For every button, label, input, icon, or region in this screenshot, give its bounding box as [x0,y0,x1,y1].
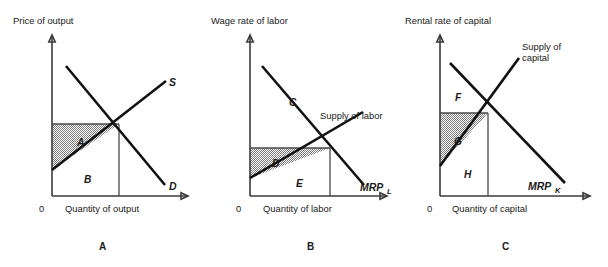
panel-b-region-label-e: E [296,178,304,189]
panel-c-x-axis-title: Quantity of capital [452,203,527,214]
panel-c-origin-label: 0 [427,203,432,214]
panel-a-caption: A [99,241,107,252]
panel-a-output-market: Price of output S D A B 0 Quantity of ou… [0,0,203,267]
panel-b-supply-label: Supply of labor [320,110,383,121]
economics-factor-market-figure: Price of output S D A B 0 Quantity of ou… [0,0,608,267]
panel-b-region-label-d: D [272,158,280,169]
panel-b-region-d-shading [250,148,330,178]
panel-c-region-label-g: G [454,136,462,147]
panel-b-labor-market: Wage rate of labor Supply of labor MRP L… [203,0,406,267]
panel-b-demand-label-group: MRP L [360,181,392,196]
panel-b-origin-label: 0 [236,203,241,214]
panel-b-region-label-c: C [289,97,297,108]
panel-b-demand-label-subscript: L [387,187,392,196]
panel-c-region-label-f: F [455,92,462,103]
panel-c-demand-label-subscript: K [555,186,561,195]
panel-c-caption: C [502,241,510,252]
panel-b-y-axis-title: Wage rate of labor [211,15,288,26]
panel-b-supply-curve [250,112,363,178]
panel-c-y-axis-title: Rental rate of capital [405,15,491,26]
panel-a-region-label-b: B [84,174,91,185]
panel-c-supply-curve [440,58,519,166]
panel-b-demand-label: MRP [360,181,384,193]
panel-b-x-axis-title: Quantity of labor [263,203,332,214]
panel-c-demand-label-group: MRP K [528,180,561,195]
panel-c-capital-market: Rental rate of capital Supply of capital… [400,0,608,267]
panel-c-demand-label: MRP [528,180,552,192]
panel-c-supply-label-line2: capital [522,52,549,63]
panel-a-supply-label: S [169,76,176,88]
panel-a-origin-label: 0 [39,203,44,214]
panel-a-demand-label: D [169,180,177,192]
panel-a-region-label-a: A [76,137,84,148]
panel-a-y-axis-title: Price of output [13,15,74,26]
panel-c-supply-label-line1: Supply of [522,41,561,52]
panel-a-x-axis-title: Quantity of output [65,203,139,214]
panel-c-region-label-h: H [464,169,472,180]
panel-b-caption: B [307,241,315,252]
